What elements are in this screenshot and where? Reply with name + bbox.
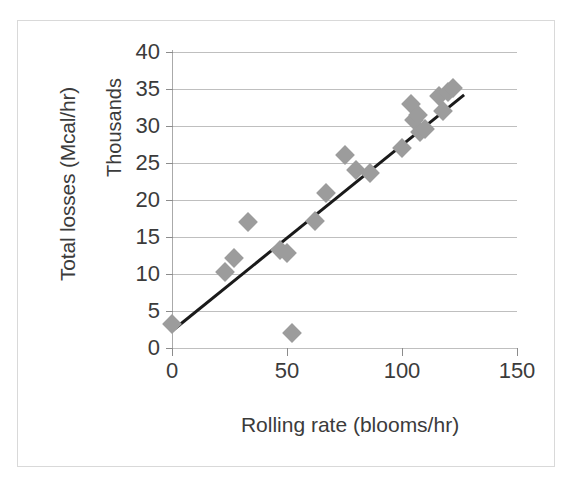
x-axis-title: Rolling rate (blooms/hr) <box>150 413 550 437</box>
x-axis-tick <box>517 348 518 356</box>
y-axis-tick <box>166 89 173 90</box>
y-axis-tick <box>166 200 173 201</box>
y-axis-tick <box>166 237 173 238</box>
x-axis-tick-label: 150 <box>482 360 552 382</box>
gridline <box>172 200 517 201</box>
y-axis-tick-label: 20 <box>114 189 160 211</box>
x-axis-tick-label: 0 <box>137 360 207 382</box>
y-axis-tick <box>166 311 173 312</box>
x-axis-tick-label: 50 <box>252 360 322 382</box>
x-axis-tick <box>172 348 173 356</box>
gridline <box>172 348 517 349</box>
gridline <box>172 52 517 53</box>
y-axis-tick-label: 35 <box>114 78 160 100</box>
y-axis-tick <box>166 163 173 164</box>
y-axis-tick-label: 25 <box>114 152 160 174</box>
x-axis-tick <box>287 348 288 356</box>
gridline <box>172 126 517 127</box>
y-axis-tick-label: 0 <box>114 337 160 359</box>
gridline <box>172 237 517 238</box>
figure-container: Total losses (Mcal/hr) Thousands Rolling… <box>0 0 578 491</box>
x-axis-tick-label: 100 <box>367 360 437 382</box>
y-axis-tick-label: 30 <box>114 115 160 137</box>
y-axis-tick-label: 5 <box>114 300 160 322</box>
y-axis-tick <box>166 274 173 275</box>
y-axis-tick <box>166 52 173 53</box>
caption-text <box>20 474 560 491</box>
y-axis-title: Total losses (Mcal/hr) <box>56 34 80 334</box>
y-axis-tick-label: 15 <box>114 226 160 248</box>
gridline <box>172 89 517 90</box>
x-axis-tick <box>402 348 403 356</box>
y-axis-tick-label: 10 <box>114 263 160 285</box>
y-axis-tick <box>166 126 173 127</box>
gridline <box>172 311 517 312</box>
y-axis-tick-label: 40 <box>114 41 160 63</box>
